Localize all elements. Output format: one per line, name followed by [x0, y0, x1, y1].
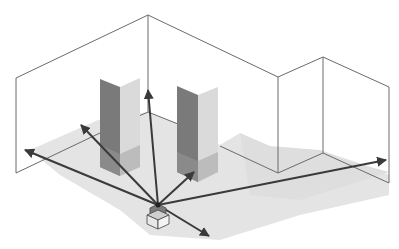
- pillar-right: [177, 86, 218, 182]
- pillar-left: [100, 78, 140, 176]
- room-diagram: Isometric room with two pillars and a ce…: [0, 0, 399, 249]
- diagram-canvas: [0, 0, 399, 249]
